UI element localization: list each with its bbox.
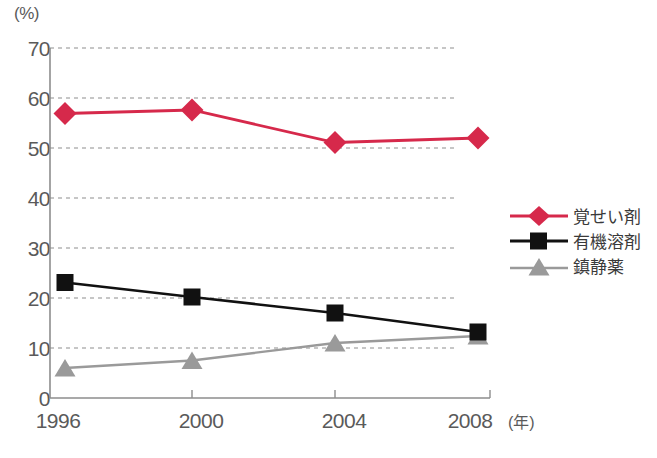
data-point-marker [57, 274, 74, 291]
legend-label-sedatives: 鎮静薬 [573, 253, 624, 278]
series-line-sedatives [55, 327, 489, 377]
legend-label-organic-solvents: 有機溶剤 [573, 228, 641, 253]
data-point-marker [467, 127, 490, 150]
axis-lines [50, 48, 490, 398]
data-point-marker [327, 305, 344, 322]
legend-swatch-diamond [508, 205, 570, 227]
data-point-marker [181, 99, 204, 122]
data-point-marker [470, 324, 487, 341]
legend-swatch-triangle [508, 255, 570, 277]
legend-item-stimulants: 覚せい剤 [508, 203, 654, 228]
chart-container: (%) 70 60 50 40 30 20 10 0 1996 2000 200… [0, 0, 657, 458]
legend-item-organic-solvents: 有機溶剤 [508, 228, 654, 253]
chart-legend: 覚せい剤 有機溶剤 鎮静薬 [508, 203, 654, 278]
legend-swatch-square [508, 230, 570, 252]
series-line-organic-solvents [57, 274, 487, 341]
data-point-marker [184, 289, 201, 306]
legend-label-stimulants: 覚せい剤 [573, 203, 641, 228]
data-point-marker [54, 102, 77, 125]
legend-item-sedatives: 鎮静薬 [508, 253, 654, 278]
data-point-marker [324, 131, 347, 154]
series-line-stimulants [54, 99, 490, 155]
